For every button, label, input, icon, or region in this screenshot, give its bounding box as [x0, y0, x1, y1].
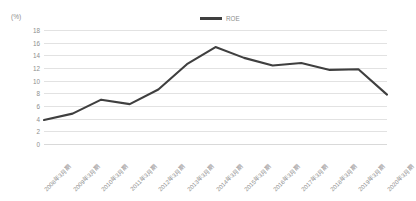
y-axis-tick-8: 8 — [36, 90, 40, 97]
x-axis-labels: 2008年3月期2009年3月期2010年3月期2011年3月期2012年3月期… — [0, 150, 405, 200]
x-axis-tick-6: 2014年3月期 — [213, 162, 244, 193]
x-axis-tick-2: 2010年3月期 — [99, 162, 130, 193]
gridline-0 — [44, 144, 387, 145]
y-axis-tick-14: 14 — [33, 52, 40, 59]
x-axis-tick-10: 2018年3月期 — [328, 162, 359, 193]
y-axis-tick-10: 10 — [33, 77, 40, 84]
x-axis-tick-1: 2009年3月期 — [70, 162, 101, 193]
x-axis-tick-9: 2017年3月期 — [299, 162, 330, 193]
x-axis-tick-4: 2012年3月期 — [156, 162, 187, 193]
series-line-roe — [44, 30, 387, 144]
y-axis-tick-18: 18 — [33, 27, 40, 34]
plot-area: 024681012141618 — [44, 30, 387, 144]
x-axis-tick-12: 2020年3月期 — [385, 162, 416, 193]
x-axis-tick-7: 2015年3月期 — [242, 162, 273, 193]
x-axis-tick-5: 2013年3月期 — [185, 162, 216, 193]
y-axis-unit-label: (%) — [11, 13, 21, 20]
y-axis-tick-4: 4 — [36, 115, 40, 122]
y-axis-tick-12: 12 — [33, 65, 40, 72]
legend-label-roe: ROE — [226, 15, 240, 22]
y-axis-tick-0: 0 — [36, 141, 40, 148]
x-axis-tick-11: 2019年3月期 — [356, 162, 387, 193]
y-axis-tick-2: 2 — [36, 128, 40, 135]
chart-legend: ROE — [200, 15, 240, 22]
legend-line-swatch-roe — [200, 17, 222, 19]
y-axis-tick-16: 16 — [33, 39, 40, 46]
x-axis-tick-0: 2008年3月期 — [42, 162, 73, 193]
y-axis-tick-6: 6 — [36, 103, 40, 110]
x-axis-tick-3: 2011年3月期 — [128, 162, 159, 193]
x-axis-tick-8: 2016年3月期 — [271, 162, 302, 193]
